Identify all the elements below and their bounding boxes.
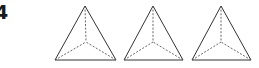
pyramid-2-outline — [124, 6, 183, 60]
pyramid-3 — [192, 6, 251, 60]
pyramid-1 — [55, 6, 116, 60]
pyramid-3-outline — [192, 6, 251, 60]
pyramid-1-hidden-edge-vertical — [85, 6, 86, 42]
pyramid-2 — [124, 6, 183, 60]
pyramids-diagram — [0, 0, 259, 68]
pyramid-1-hidden-edge-right — [86, 42, 116, 60]
